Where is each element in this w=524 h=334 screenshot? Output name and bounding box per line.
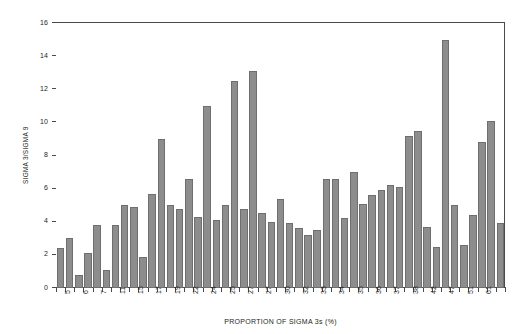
y-axis-tick-label-text: 6	[28, 184, 48, 191]
y-axis-tick-label: 10	[28, 118, 48, 125]
x-axis-tick-label: 24	[210, 286, 217, 294]
y-axis-tick-label-text: 14	[28, 52, 48, 59]
x-axis-tick-label: 25	[229, 286, 236, 294]
x-axis-tick-label: 6	[82, 290, 89, 294]
y-axis-tick-label-text: 16	[28, 19, 48, 26]
bar	[277, 199, 285, 288]
bar	[185, 179, 193, 288]
bar	[84, 253, 92, 288]
x-axis-tick-label: 35	[357, 286, 364, 294]
bar	[222, 205, 230, 288]
x-axis-tick-label: 11	[119, 287, 126, 294]
bar	[148, 194, 156, 288]
x-axis-tick-label: 51	[467, 286, 474, 294]
bar	[258, 213, 266, 288]
x-axis-tick	[349, 288, 350, 292]
y-axis-tick-label-text: 4	[28, 217, 48, 224]
bar	[158, 139, 166, 288]
bar	[423, 227, 431, 288]
x-axis-tick	[184, 288, 185, 292]
x-axis-tick-label: 7	[100, 290, 107, 294]
bar	[433, 247, 441, 288]
bar	[66, 238, 74, 288]
x-axis-tick	[505, 288, 506, 292]
bar	[478, 142, 486, 288]
bar	[121, 205, 129, 288]
x-axis-tick	[111, 288, 112, 292]
bar	[295, 228, 303, 288]
bar	[57, 248, 65, 288]
x-axis-tick	[404, 288, 405, 292]
bar	[240, 209, 248, 289]
x-axis-tick	[221, 288, 222, 292]
x-axis-tick	[331, 288, 332, 292]
x-axis-tick-label: 22	[192, 286, 199, 294]
x-axis-tick-label: 27	[247, 286, 254, 294]
bar	[460, 245, 468, 288]
y-axis-tick-label: 12	[28, 85, 48, 92]
bar	[387, 185, 395, 288]
x-axis-tick	[368, 288, 369, 292]
y-axis-tick-label-text: 8	[28, 151, 48, 158]
x-axis-tick-label: 32	[302, 286, 309, 294]
y-axis-tick-label: 4	[28, 217, 48, 224]
bar	[359, 204, 367, 288]
x-axis-tick	[313, 288, 314, 292]
y-axis-tick-label: 0	[28, 284, 48, 291]
bar	[213, 220, 221, 288]
y-axis-tick-label: 8	[28, 151, 48, 158]
x-axis-tick-label: 47	[448, 286, 455, 294]
x-axis-tick	[129, 288, 130, 292]
x-axis-tick-label: 5	[64, 290, 71, 294]
bar	[203, 106, 211, 288]
x-axis-tick	[56, 288, 57, 292]
x-axis-tick	[166, 288, 167, 292]
x-axis-tick-label: 37	[393, 286, 400, 294]
x-axis-tick-label: 33	[320, 286, 327, 294]
x-axis-tick	[386, 288, 387, 292]
bar	[451, 205, 459, 288]
bar	[286, 223, 294, 288]
x-axis-tick-label: 61	[485, 286, 492, 294]
y-axis-tick-label: 16	[28, 19, 48, 26]
bar	[313, 230, 321, 288]
bar	[112, 225, 120, 288]
bar	[93, 225, 101, 288]
bar	[332, 179, 340, 288]
plot-area	[56, 22, 505, 287]
x-axis-tick	[459, 288, 460, 292]
x-axis-tick	[148, 288, 149, 292]
x-axis-tick	[239, 288, 240, 292]
bar	[167, 205, 175, 288]
y-axis-tick-label-text: 12	[28, 85, 48, 92]
y-axis-tick-label-text: 2	[28, 250, 48, 257]
bar	[396, 187, 404, 288]
y-axis-tick-label: 6	[28, 184, 48, 191]
bar	[176, 209, 184, 289]
x-axis-tick	[496, 288, 497, 292]
bar	[414, 131, 422, 288]
x-axis-tick	[203, 288, 204, 292]
x-axis-tick-label: 38	[412, 286, 419, 294]
bar	[368, 195, 376, 288]
x-axis-title: PROPORTION OF SIGMA 3s (%)	[56, 318, 505, 326]
bar	[378, 190, 386, 288]
bar	[130, 207, 138, 288]
y-axis-tick-label: 14	[28, 52, 48, 59]
bar	[249, 71, 257, 288]
x-axis-tick-label: 17	[155, 286, 162, 294]
x-axis-tick-label: 34	[338, 286, 345, 294]
x-axis-tick-label: 42	[430, 286, 437, 294]
bar	[75, 275, 83, 288]
bar	[103, 270, 111, 288]
x-axis-tick-label: 15	[137, 286, 144, 294]
x-axis-tick-label: 30	[284, 286, 291, 294]
x-axis-tick-label: 36	[375, 286, 382, 294]
bar	[139, 257, 147, 288]
bar-series	[56, 23, 505, 288]
bar	[323, 179, 331, 288]
bar	[194, 217, 202, 288]
chart-figure: SIGMA 3/SIGMA 9 0246810121416 5671115171…	[0, 0, 524, 334]
y-axis-tick-label-text: 0	[28, 284, 48, 291]
x-axis-tick	[294, 288, 295, 292]
